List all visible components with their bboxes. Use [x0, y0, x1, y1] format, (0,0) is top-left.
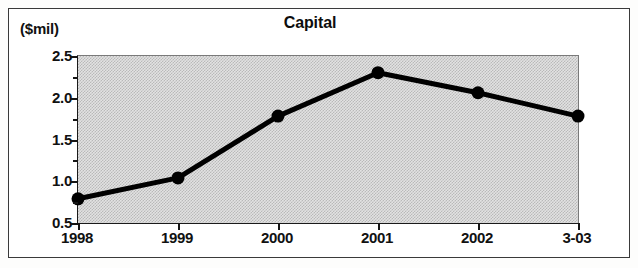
- y-axis-major-tick: [71, 140, 78, 142]
- data-point-marker: [472, 86, 485, 99]
- x-axis-tick-labels: 199819992000200120023-03: [77, 229, 579, 251]
- series-line-capital: [78, 73, 578, 199]
- x-axis-tick-label: 1998: [37, 229, 117, 246]
- data-point-marker: [272, 110, 285, 123]
- data-point-marker: [372, 66, 385, 79]
- y-axis-tick-label: 1.0: [30, 172, 72, 189]
- y-axis-major-tick: [71, 98, 78, 100]
- x-axis-tick-label: 3-03: [537, 229, 617, 246]
- chart-figure: ($mil) Capital 0.51.01.52.02.5 199819992…: [0, 0, 638, 268]
- data-point-marker: [572, 110, 585, 123]
- x-axis-tick-label: 2001: [337, 229, 417, 246]
- x-axis-tick-label: 2000: [237, 229, 317, 246]
- y-axis-tick-label: 0.5: [30, 214, 72, 231]
- y-axis-minor-tick: [73, 160, 78, 162]
- y-axis-minor-tick: [73, 119, 78, 121]
- y-axis-minor-tick: [73, 202, 78, 204]
- capital-line-series: [78, 56, 578, 223]
- y-axis-major-tick: [71, 56, 78, 58]
- y-axis-major-tick: [71, 223, 78, 225]
- data-point-marker: [172, 171, 185, 184]
- plot-area: [77, 55, 579, 224]
- y-axis-tick-label: 2.5: [30, 47, 72, 64]
- y-axis-minor-tick: [73, 77, 78, 79]
- chart-title: Capital: [250, 14, 370, 32]
- y-axis-major-tick: [71, 181, 78, 183]
- y-axis-tick-label: 2.0: [30, 88, 72, 105]
- y-axis-tick-labels: 0.51.01.52.02.5: [20, 55, 72, 222]
- x-axis-tick-label: 1999: [137, 229, 217, 246]
- y-axis-unit-label: ($mil): [20, 20, 59, 37]
- y-axis-tick-label: 1.5: [30, 130, 72, 147]
- x-axis-tick-label: 2002: [437, 229, 517, 246]
